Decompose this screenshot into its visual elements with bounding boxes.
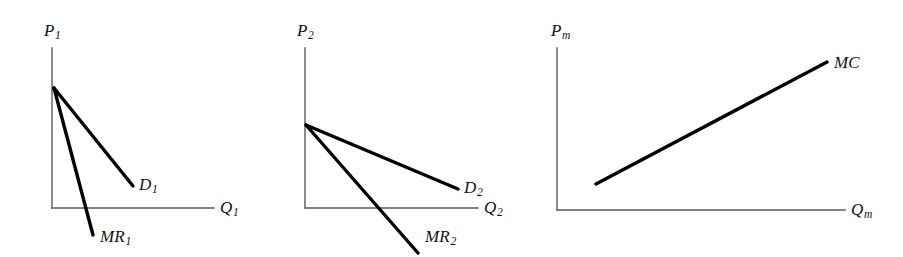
demand-curve-1-label: D1 [139, 176, 158, 195]
demand-curve-2 [306, 125, 458, 189]
marginal-revenue-curve-1-label: MR1 [100, 228, 131, 247]
panel-1-y-axis-label: P1 [44, 22, 61, 41]
panel-2-x-axis-label-base: Q [484, 198, 496, 217]
figure-lines [0, 0, 903, 257]
marginal-revenue-curve-2-label: MR2 [425, 228, 456, 247]
demand-curve-1-label-sub: 1 [151, 183, 157, 195]
panel-3-y-axis-label: Pm [551, 22, 570, 41]
marginal-revenue-curve-2 [306, 125, 418, 253]
panel-3-y-axis-label-sub: m [562, 29, 571, 41]
marginal-cost-curve-label-sub [860, 61, 861, 73]
marginal-cost-curve [596, 62, 827, 184]
panel-3-x-axis-label-sub: m [863, 208, 872, 220]
panel-1-x-axis-label-base: Q [220, 198, 232, 217]
demand-curve-2-label: D2 [464, 179, 483, 198]
marginal-revenue-curve-1-label-sub: 1 [125, 235, 131, 247]
marginal-cost-curve-label-base: MC [834, 53, 860, 72]
economics-three-panel-figure: P1 Q1 D1 MR1 P2 Q2 D2 MR2 Pm Qm MC [0, 0, 903, 257]
panel-1-y-axis-label-sub: 1 [55, 29, 61, 41]
demand-curve-1-label-base: D [139, 175, 151, 194]
panel-1-x-axis-label: Q1 [220, 199, 239, 218]
panel-2-y-axis-label-sub: 2 [308, 29, 314, 41]
marginal-revenue-curve-1-label-base: MR [100, 227, 125, 246]
demand-curve-2-label-sub: 2 [476, 186, 482, 198]
panel-1-y-axis-label-base: P [44, 21, 55, 40]
panel-3-x-axis-label-base: Q [851, 200, 863, 219]
panel-2-x-axis-label: Q2 [484, 199, 503, 218]
panel-2-y-axis-label-base: P [297, 21, 308, 40]
panel-2-y-axis-label: P2 [297, 22, 314, 41]
panel-1-x-axis-label-sub: 1 [232, 206, 238, 218]
demand-curve-2-label-base: D [464, 178, 476, 197]
panel-3-y-axis-label-base: P [551, 21, 562, 40]
panel-2-x-axis-label-sub: 2 [496, 206, 502, 218]
marginal-revenue-curve-2-label-sub: 2 [450, 235, 456, 247]
marginal-revenue-curve-2-label-base: MR [425, 227, 450, 246]
panel-3-x-axis-label: Qm [851, 201, 872, 220]
marginal-cost-curve-label: MC [834, 54, 860, 73]
